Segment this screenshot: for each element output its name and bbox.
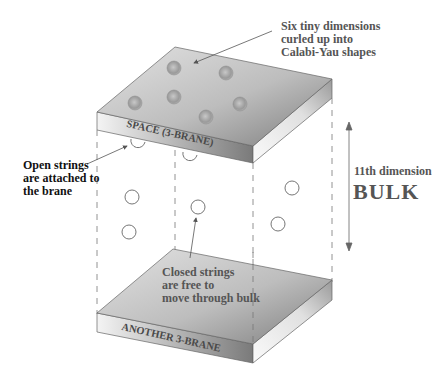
closed-string-loop [271,217,285,231]
open-string-loop [183,152,197,161]
closed-string-loop [125,190,139,204]
calabi-yau-sphere-icon [199,110,213,124]
eleventh-dimension-label: 11th dimension [354,165,432,178]
open-string-loop [131,139,145,148]
open-strings-label: Open strings are attached to the brane [23,159,99,198]
closed-string-loop [191,200,205,214]
calabi-yau-sphere-icon [167,90,181,104]
bulk-label: BULK [353,181,419,203]
closed-strings-label: Closed strings are free to move through … [162,266,260,305]
closed-strings-pointer-arrow [190,218,196,258]
calabi-yau-pointer-arrow [194,31,272,63]
closed-string-loop [122,225,136,239]
brane-diagram: Six tiny dimensions curled up into Calab… [0,0,445,381]
calabi-yau-sphere-icon [167,61,181,75]
arrow-down-icon [346,243,352,251]
closed-string-loop [285,181,299,195]
eleventh-dimension-arrow [346,122,352,251]
calabi-yau-label: Six tiny dimensions curled up into Calab… [281,20,380,59]
arrow-up-icon [346,122,352,130]
calabi-yau-sphere-icon [128,96,142,110]
calabi-yau-sphere-icon [233,97,247,111]
calabi-yau-sphere-icon [219,66,233,80]
closed-strings [122,181,299,239]
